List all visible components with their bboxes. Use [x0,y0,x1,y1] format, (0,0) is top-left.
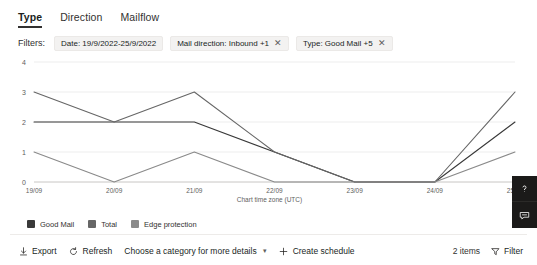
toolbar-right-group: 2 items Filter [453,246,523,256]
y-axis-tick-label: 2 [22,119,26,126]
tab-type[interactable]: Type [18,11,42,28]
x-axis-tick-label: 22/09 [266,187,283,194]
export-label: Export [32,246,57,256]
legend-swatch-icon [27,220,35,228]
legend-label: Edge protection [144,220,197,229]
legend-item-good-mail[interactable]: Good Mail [27,220,74,229]
feedback-button[interactable] [512,202,537,228]
filter-chip-type-text: Type: Good Mail +5 [303,39,373,48]
create-schedule-label: Create schedule [293,246,355,256]
tab-bar: Type Direction Mailflow [0,0,537,28]
legend-label: Good Mail [40,220,74,229]
x-axis-tick-label: 21/09 [186,187,203,194]
legend-item-edge-protection[interactable]: Edge protection [131,220,197,229]
close-icon[interactable]: ✕ [274,39,282,48]
legend-label: Total [101,220,117,229]
items-count: 2 items [453,246,480,256]
x-axis-tick-label: 23/09 [347,187,364,194]
chart-timezone-note: Chart time zone (UTC) [10,196,529,203]
legend-item-total[interactable]: Total [88,220,117,229]
filter-chip-date-text: Date: 19/9/2022-25/9/2022 [61,39,156,48]
filter-button[interactable]: Filter [490,246,523,256]
filter-chip-date[interactable]: Date: 19/9/2022-25/9/2022 [54,36,163,51]
create-schedule-button[interactable]: Create schedule [279,246,355,256]
export-button[interactable]: Export [18,246,57,256]
y-axis-tick-label: 3 [22,89,26,96]
help-button[interactable] [512,176,537,202]
chart-legend: Good Mail Total Edge protection [0,208,537,230]
filters-bar: Filters: Date: 19/9/2022-25/9/2022 Mail … [0,28,537,52]
series-line[interactable] [34,92,515,182]
series-line[interactable] [34,152,515,182]
filters-label: Filters: [18,38,45,48]
filter-label: Filter [504,246,523,256]
help-icon [519,183,530,194]
filter-icon [490,246,500,256]
filter-chip-mail-direction[interactable]: Mail direction: Inbound +1 ✕ [170,36,289,51]
y-axis-tick-label: 4 [22,59,26,66]
x-axis-tick-label: 24/09 [427,187,444,194]
y-axis-tick-label: 1 [22,149,26,156]
download-icon [18,246,28,256]
floating-side-buttons [512,176,537,228]
category-dropdown[interactable]: Choose a category for more details ▾ [124,246,266,256]
close-icon[interactable]: ✕ [378,39,386,48]
category-dropdown-label: Choose a category for more details [124,246,256,256]
plus-icon [279,246,289,256]
line-chart: 0123419/0920/0921/0922/0923/0924/0925/09… [10,56,529,208]
filter-chip-type[interactable]: Type: Good Mail +5 ✕ [296,36,393,51]
legend-swatch-icon [88,220,96,228]
refresh-label: Refresh [83,246,113,256]
tab-direction[interactable]: Direction [60,11,102,28]
chart-canvas: 0123419/0920/0921/0922/0923/0924/0925/09 [10,56,529,208]
filter-chip-mail-direction-text: Mail direction: Inbound +1 [177,39,269,48]
chevron-down-icon: ▾ [263,247,267,255]
bottom-toolbar: Export Refresh Choose a category for mor… [0,239,537,263]
y-axis-tick-label: 0 [22,179,26,186]
feedback-icon [519,210,530,221]
refresh-icon [69,246,79,256]
divider [10,234,527,235]
tab-mailflow[interactable]: Mailflow [120,11,159,28]
x-axis-tick-label: 20/09 [106,187,123,194]
legend-swatch-icon [131,220,139,228]
refresh-button[interactable]: Refresh [69,246,113,256]
mail-report-panel: Type Direction Mailflow Filters: Date: 1… [0,0,537,265]
x-axis-tick-label: 19/09 [26,187,43,194]
